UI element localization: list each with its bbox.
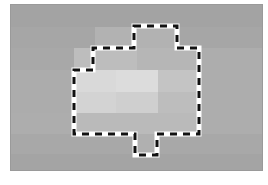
pixel-block: [74, 70, 116, 92]
pixel-block: [74, 92, 116, 113]
pixel-block: [158, 92, 200, 113]
pixel-block: [74, 48, 137, 70]
pixel-block: [74, 113, 200, 134]
pixel-block: [116, 70, 158, 92]
pixel-block: [137, 48, 200, 70]
pixel-block: [135, 134, 157, 154]
pixel-block: [95, 27, 179, 48]
pixel-block: [11, 5, 262, 27]
pixel-block: [116, 92, 158, 113]
pixel-block: [200, 48, 262, 113]
image-canvas[interactable]: [11, 5, 262, 170]
pixel-block: [158, 70, 200, 92]
pixel-block: [11, 154, 262, 170]
